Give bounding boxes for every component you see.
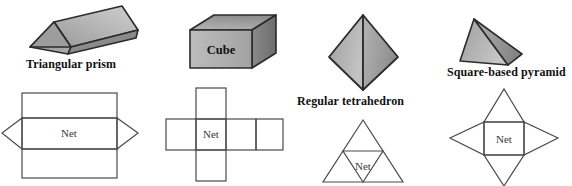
cube-net (166, 88, 283, 181)
net-label-pyramid: Net (496, 133, 512, 145)
net-rect-bottom (22, 149, 117, 178)
net-triangle-top (484, 89, 524, 122)
cube-solid-label: Cube (207, 43, 236, 57)
tetrahedron-graphics: Net (288, 0, 438, 186)
net-square-bottom (196, 150, 226, 181)
square-pyramid-graphics: Net (438, 0, 572, 186)
tetrahedron-right-face (363, 15, 398, 90)
column-regular-tetrahedron: Net Regular tetrahedron (288, 0, 438, 186)
net-rect-top (22, 93, 117, 118)
triangular-prism-graphics: Net (0, 0, 160, 186)
net-triangle-bottom (484, 155, 524, 186)
net-label-tetrahedron: Net (355, 160, 371, 172)
net-triangle-right (524, 122, 558, 155)
net-square-right (226, 119, 256, 150)
column-cube: Cube Net (160, 0, 295, 186)
net-triangle-left (450, 122, 484, 155)
column-triangular-prism: Net Triangular prism (0, 0, 160, 186)
column-square-based-pyramid: Net Square-based pyramid (438, 0, 572, 186)
net-label-prism: Net (61, 127, 77, 139)
label-triangular-prism: Triangular prism (26, 57, 116, 72)
cube-graphics: Cube Net (160, 0, 295, 186)
net-square-top (196, 88, 226, 119)
tetrahedron-left-face (329, 15, 363, 90)
triangular-prism-solid (30, 6, 138, 54)
net-label-cube: Net (203, 128, 219, 140)
net-triangle-left (2, 118, 22, 149)
tetrahedron-solid (329, 15, 398, 90)
label-square-based-pyramid: Square-based pyramid (447, 65, 566, 80)
label-regular-tetrahedron: Regular tetrahedron (297, 94, 404, 109)
cube-solid: Cube (190, 15, 276, 68)
square-pyramid-solid (460, 19, 522, 65)
net-square-left (166, 119, 196, 150)
net-square-far-right (256, 119, 283, 150)
net-triangle-right (117, 118, 138, 149)
solids-and-nets-figure: solids and the nets that make them. (0, 0, 572, 186)
tetrahedron-net (323, 120, 403, 182)
